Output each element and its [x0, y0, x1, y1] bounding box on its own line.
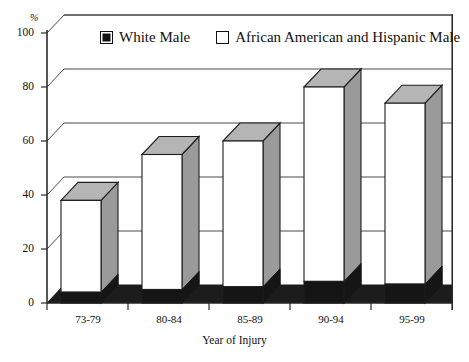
bar-segment-white-male — [142, 290, 182, 304]
x-tick-label-85-89: 85-89 — [215, 313, 285, 325]
x-tick-label-80-84: 80-84 — [134, 313, 204, 325]
bar-segment-african-american-and-hispanic-male — [142, 155, 182, 290]
bar-group-85-89 — [223, 123, 280, 303]
bar-segment-african-american-and-hispanic-male — [304, 87, 344, 281]
x-tick-label-95-99: 95-99 — [377, 313, 447, 325]
bar-group-90-94 — [304, 69, 361, 303]
bar-group-95-99 — [385, 85, 442, 303]
bar-segment-white-male — [304, 281, 344, 303]
bar-segment-african-american-and-hispanic-male — [223, 141, 263, 287]
bars-layer — [0, 0, 469, 362]
x-tick-label-73-79: 73-79 — [53, 313, 123, 325]
bar-group-80-84 — [142, 137, 199, 304]
x-tick-label-90-94: 90-94 — [296, 313, 366, 325]
bar-group-73-79 — [61, 182, 118, 303]
bar-segment-white-male — [223, 287, 263, 303]
bar-segment-white-male — [61, 292, 101, 303]
bar-segment-african-american-and-hispanic-male — [385, 103, 425, 284]
x-axis-title: Year of Injury — [0, 334, 469, 346]
bar-segment-white-male — [385, 284, 425, 303]
bar-chart: % 100 80 60 40 20 0 White Male African A… — [0, 0, 469, 362]
bar-segment-african-american-and-hispanic-male — [61, 200, 101, 292]
